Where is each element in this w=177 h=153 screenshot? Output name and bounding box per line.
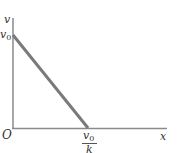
origin-label: O (2, 128, 12, 142)
y-axis-label: v (4, 13, 11, 26)
y-intercept-label: v0 (0, 28, 11, 42)
x-intercept-numerator: v0 (83, 129, 94, 143)
x-axis-label: x (160, 130, 167, 143)
velocity-line (13, 35, 88, 128)
x-intercept-denominator: k (86, 143, 93, 153)
graph-canvas: v v0 O x v0 k (0, 0, 177, 153)
